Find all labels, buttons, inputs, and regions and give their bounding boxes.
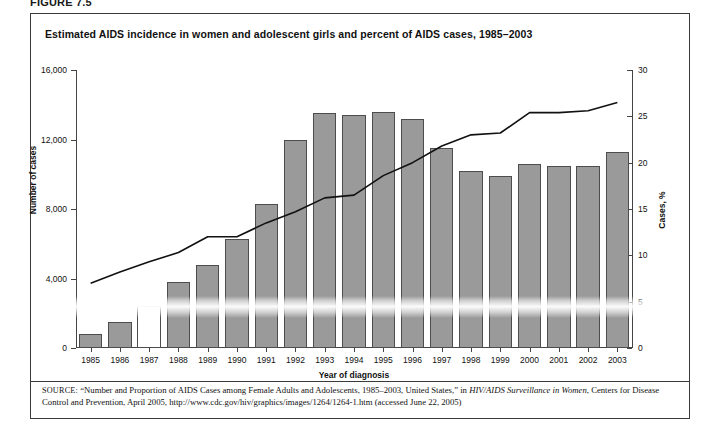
source-prefix: SOURCE:: [42, 386, 78, 395]
x-tick: [588, 348, 589, 352]
figure-label: FIGURE 7.5: [30, 0, 92, 8]
x-tick-label-1996: 1996: [397, 355, 429, 365]
y-tick-left: [71, 348, 76, 349]
x-tick-label-1994: 1994: [338, 355, 370, 365]
y-tick-label-right: 0: [638, 343, 643, 353]
x-tick-label-1989: 1989: [192, 355, 224, 365]
x-tick: [383, 348, 384, 352]
x-tick: [559, 348, 560, 352]
x-tick: [471, 348, 472, 352]
chart-title: Estimated AIDS incidence in women and ad…: [45, 28, 532, 40]
x-tick-label-1988: 1988: [162, 355, 194, 365]
x-tick: [530, 348, 531, 352]
y-tick-label-right: 30: [638, 65, 647, 75]
x-tick: [91, 348, 92, 352]
x-tick: [500, 348, 501, 352]
x-tick: [237, 348, 238, 352]
source-publication: HIV/AIDS Surveillance in Women: [469, 385, 587, 395]
source-note: SOURCE: “Number and Proportion of AIDS C…: [42, 385, 682, 408]
y-tick-label-left: 16,000: [23, 65, 67, 75]
x-tick-label-1992: 1992: [279, 355, 311, 365]
x-tick: [325, 348, 326, 352]
x-tick-label-1999: 1999: [484, 355, 516, 365]
y-tick-label-left: 4,000: [23, 274, 67, 284]
x-tick-label-2000: 2000: [514, 355, 546, 365]
x-tick-label-2002: 2002: [572, 355, 604, 365]
y-tick-label-right: 5: [638, 297, 643, 307]
y-tick-label-left: 0: [23, 343, 67, 353]
y-tick-label-left: 12,000: [23, 135, 67, 145]
x-tick-label-1993: 1993: [309, 355, 341, 365]
x-tick-label-2001: 2001: [543, 355, 575, 365]
x-tick-label-1990: 1990: [221, 355, 253, 365]
y-tick-label-right: 20: [638, 158, 647, 168]
x-tick: [120, 348, 121, 352]
x-tick: [413, 348, 414, 352]
y-tick-label-right: 15: [638, 204, 647, 214]
y-tick-label-left: 8,000: [23, 204, 67, 214]
source-quote: “Number and Proportion of AIDS Cases amo…: [80, 385, 469, 395]
x-axis-label: Year of diagnosis: [76, 370, 632, 380]
y-axis-label-right: Cases, %: [657, 165, 667, 255]
x-tick-label-1986: 1986: [104, 355, 136, 365]
percent-line-path: [91, 102, 618, 283]
y-tick-right: [627, 348, 632, 349]
line-series: [76, 70, 632, 348]
x-tick: [266, 348, 267, 352]
x-tick: [442, 348, 443, 352]
y-tick-label-right: 10: [638, 250, 647, 260]
x-tick: [149, 348, 150, 352]
x-tick: [295, 348, 296, 352]
secondary-axis-line: [632, 70, 633, 348]
x-tick-label-1998: 1998: [455, 355, 487, 365]
source-divider: [31, 381, 689, 382]
x-tick-label-2003: 2003: [601, 355, 633, 365]
x-tick: [178, 348, 179, 352]
x-tick-label-1995: 1995: [367, 355, 399, 365]
x-tick: [208, 348, 209, 352]
x-tick-label-1991: 1991: [250, 355, 282, 365]
x-tick: [617, 348, 618, 352]
x-tick-label-1987: 1987: [133, 355, 165, 365]
x-tick-label-1985: 1985: [75, 355, 107, 365]
y-tick-label-right: 25: [638, 111, 647, 121]
x-tick: [354, 348, 355, 352]
x-tick-label-1997: 1997: [426, 355, 458, 365]
